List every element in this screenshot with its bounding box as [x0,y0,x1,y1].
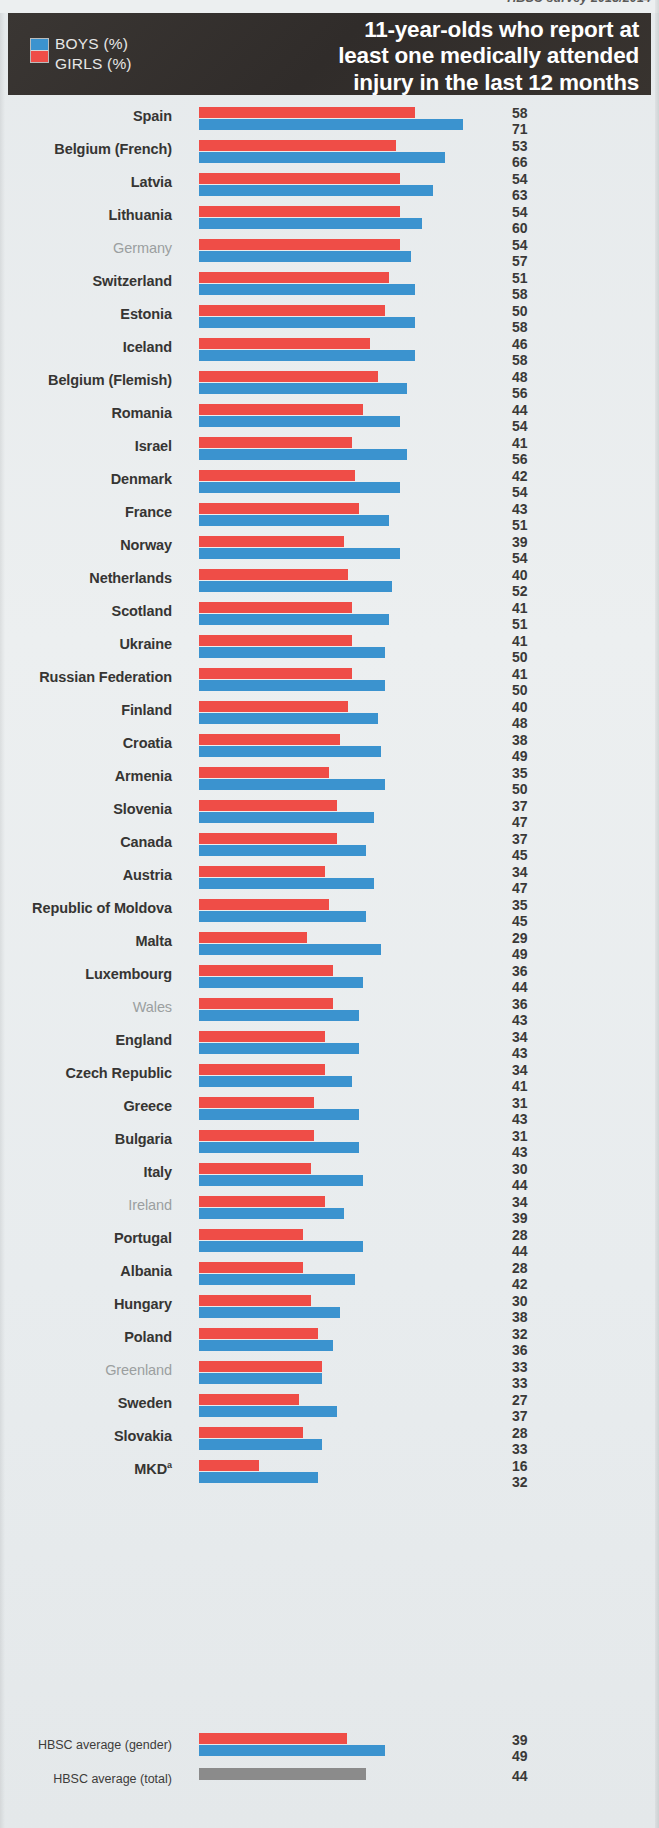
chart-row: Greece3143 [0,1094,659,1127]
value-labels: 3038 [512,1293,552,1326]
chart-row: France4351 [0,500,659,533]
bar-group [199,1097,359,1120]
value-boys: 37 [512,1408,552,1424]
value-boys: 50 [512,781,552,797]
value-boys: 33 [512,1441,552,1457]
bar-boys [199,1373,322,1384]
country-label: Germany [0,241,172,257]
bar-boys [199,350,415,361]
page-right-edge-shadow [655,0,659,1828]
bar-group [199,965,363,988]
bar-group [199,932,381,955]
bar-girls [199,1427,303,1438]
country-label: Slovakia [0,1429,172,1445]
value-girls: 33 [512,1359,552,1375]
bar-girls [199,206,400,217]
bar-boys [199,647,385,658]
chart-row: Iceland4658 [0,335,659,368]
bar-girls [199,1460,259,1471]
chart-row: Russian Federation4150 [0,665,659,698]
value-labels: 3439 [512,1194,552,1227]
value-labels: 5366 [512,138,552,171]
bar-group [199,602,389,625]
bar-boys [199,449,407,460]
bar-group [199,833,366,856]
bar-group [199,404,400,427]
chart-row: Slovakia2833 [0,1424,659,1457]
chart-row: Croatia3849 [0,731,659,764]
chart-rows: Spain5871Belgium (French)5366Latvia5463L… [0,104,659,1490]
value-girls: 35 [512,897,552,913]
bar-group [199,866,374,889]
bar-group [199,1163,363,1186]
value-girls: 54 [512,204,552,220]
country-label: Greece [0,1099,172,1115]
chart-row: Armenia3550 [0,764,659,797]
bar-girls [199,965,333,976]
bar-boys [199,119,463,130]
value-labels: 4454 [512,402,552,435]
bar-group [199,1229,363,1252]
chart-row: Latvia5463 [0,170,659,203]
value-boys: 58 [512,286,552,302]
bar-girls [199,1163,311,1174]
bar-group [199,1427,322,1450]
bar-group [199,305,415,328]
legend-label-girls: GIRLS (%) [55,54,132,74]
value-labels: 3044 [512,1161,552,1194]
value-girls: 35 [512,765,552,781]
value-girls: 31 [512,1095,552,1111]
bar-group [199,1295,340,1318]
country-label: Republic of Moldova [0,901,172,917]
country-label: Luxembourg [0,967,172,983]
value-boys: 33 [512,1375,552,1391]
bar-boys [199,878,374,889]
chart-row: Slovenia3747 [0,797,659,830]
value-labels: 4048 [512,699,552,732]
chart-row: Albania2842 [0,1259,659,1292]
bar-girls [199,569,348,580]
value-labels: 4351 [512,501,552,534]
chart-row: Hungary3038 [0,1292,659,1325]
value-boys: 41 [512,1078,552,1094]
country-label: Belgium (French) [0,142,172,158]
bar-girls [199,272,389,283]
bar-boys [199,1241,363,1252]
value-boys: 57 [512,253,552,269]
bar-girls [199,1295,311,1306]
value-boys: 39 [512,1210,552,1226]
value-girls: 54 [512,171,552,187]
value-boys: 58 [512,352,552,368]
page-title-line-3: injury in the last 12 months [209,70,639,96]
bar-group [199,206,422,229]
bar-girls [199,734,340,745]
country-label: France [0,505,172,521]
value-labels: 3447 [512,864,552,897]
value-girls: 36 [512,963,552,979]
bar-boys [199,1175,363,1186]
chart-row: Bulgaria3143 [0,1127,659,1160]
country-label: Iceland [0,340,172,356]
bar-group [199,239,411,262]
value-girls: 37 [512,831,552,847]
bar-boys [199,911,366,922]
legend-label-group: BOYS (%) GIRLS (%) [55,34,132,75]
bar-boys [199,581,392,592]
bar-group [199,107,463,130]
page-title-line-1: 11-year-olds who report at [209,17,639,43]
country-label: Scotland [0,604,172,620]
value-girls: 28 [512,1227,552,1243]
value-girls: 27 [512,1392,552,1408]
source-note: HBSC survey 2013/2014 [507,0,651,5]
source-note-strip: HBSC survey 2013/2014 [0,0,659,13]
country-label: England [0,1033,172,1049]
bar-boys [199,383,407,394]
country-label: Ireland [0,1198,172,1214]
bar-boys [199,1406,337,1417]
average-gender-bar-group [199,1733,385,1756]
chart-header-banner: BOYS (%) GIRLS (%) 11-year-olds who repo… [8,13,651,95]
value-labels: 3849 [512,732,552,765]
value-boys: 32 [512,1474,552,1490]
bar-boys [199,317,415,328]
bar-girls [199,140,396,151]
